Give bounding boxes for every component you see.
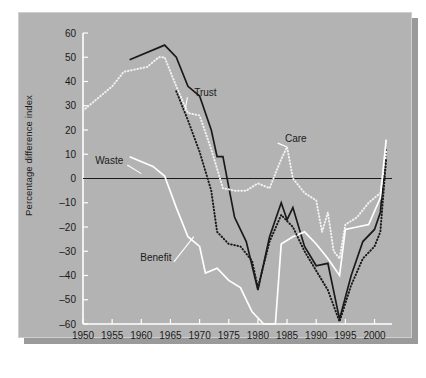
chart-figure: Percentage difference index 605040302010… xyxy=(0,0,426,378)
chart-panel xyxy=(18,12,412,338)
y-axis-label: Percentage difference index xyxy=(23,66,34,246)
